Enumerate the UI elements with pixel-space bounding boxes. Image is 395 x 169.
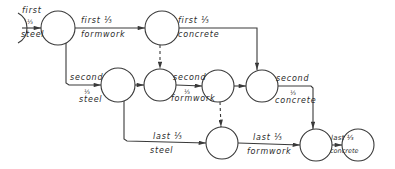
node-1 (41, 11, 75, 45)
arrow-second-formwork (176, 85, 202, 86)
arrow-last-formwork (238, 143, 300, 145)
label-last-formwork-2: formwork (247, 147, 292, 156)
label-first-concrete-1: first ⅓ (178, 16, 210, 25)
label-second-steel-1: second (70, 73, 103, 82)
node-3 (101, 68, 135, 102)
label-second-formwork-3: formwork (171, 94, 216, 103)
label-first-formwork-2: formwork (81, 30, 126, 39)
node-2 (145, 11, 179, 45)
label-last-steel-2: steel (150, 146, 173, 155)
node-7 (206, 127, 238, 159)
network-diagram (0, 0, 395, 169)
node-6 (246, 70, 278, 102)
label-first-steel-3: steel (21, 30, 44, 39)
label-first-steel-1: first (22, 6, 42, 15)
label-second-concrete-3: concrete (275, 96, 316, 105)
arrow-dummy-5-7 (220, 102, 221, 127)
label-second-formwork-1: second (173, 73, 206, 82)
label-first-formwork-1: first ⅓ (81, 16, 113, 25)
label-first-steel-2: ⅓ (27, 17, 33, 26)
node-8 (300, 129, 332, 161)
label-second-steel-3: steel (79, 95, 102, 104)
label-last-steel-1: last ⅓ (153, 132, 183, 141)
label-last-concrete-2: concrete (330, 147, 358, 156)
label-last-concrete-1: last ⅓ (331, 134, 354, 143)
label-second-concrete-1: second (276, 74, 309, 83)
label-last-formwork-1: last ⅓ (253, 133, 283, 142)
label-first-concrete-2: concrete (178, 30, 219, 39)
